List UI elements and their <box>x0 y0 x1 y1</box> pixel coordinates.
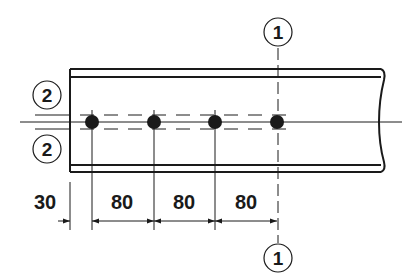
arrowhead-icon <box>215 219 222 224</box>
dimension-label: 80 <box>235 191 257 213</box>
bolt-4 <box>270 115 284 129</box>
section-marker-2-upper: 2 <box>33 81 61 109</box>
dimension-label: 80 <box>111 191 133 213</box>
bolt-3 <box>208 115 222 129</box>
dimension-label: 30 <box>34 191 56 213</box>
arrowhead-icon <box>208 219 215 224</box>
arrowhead-icon <box>92 219 99 224</box>
arrowhead-icon <box>270 219 277 224</box>
bolt-2 <box>147 115 161 129</box>
arrowhead-icon <box>63 219 70 224</box>
arrowhead-icon <box>154 219 161 224</box>
section-marker-1-bottom: 1 <box>264 244 292 272</box>
section-marker-label: 1 <box>273 22 284 43</box>
section-marker-1-top: 1 <box>264 18 292 46</box>
section-marker-label: 2 <box>42 85 53 106</box>
beam-break-line <box>379 69 385 172</box>
technical-drawing: 1 1 2 2 30 80 80 <box>0 0 409 280</box>
beam <box>70 69 385 172</box>
bolt-1 <box>85 115 99 129</box>
section-marker-label: 2 <box>42 139 53 160</box>
dimension-label: 80 <box>173 191 195 213</box>
section-marker-label: 1 <box>273 248 284 269</box>
arrowhead-icon <box>147 219 154 224</box>
section-marker-2-lower: 2 <box>33 135 61 163</box>
